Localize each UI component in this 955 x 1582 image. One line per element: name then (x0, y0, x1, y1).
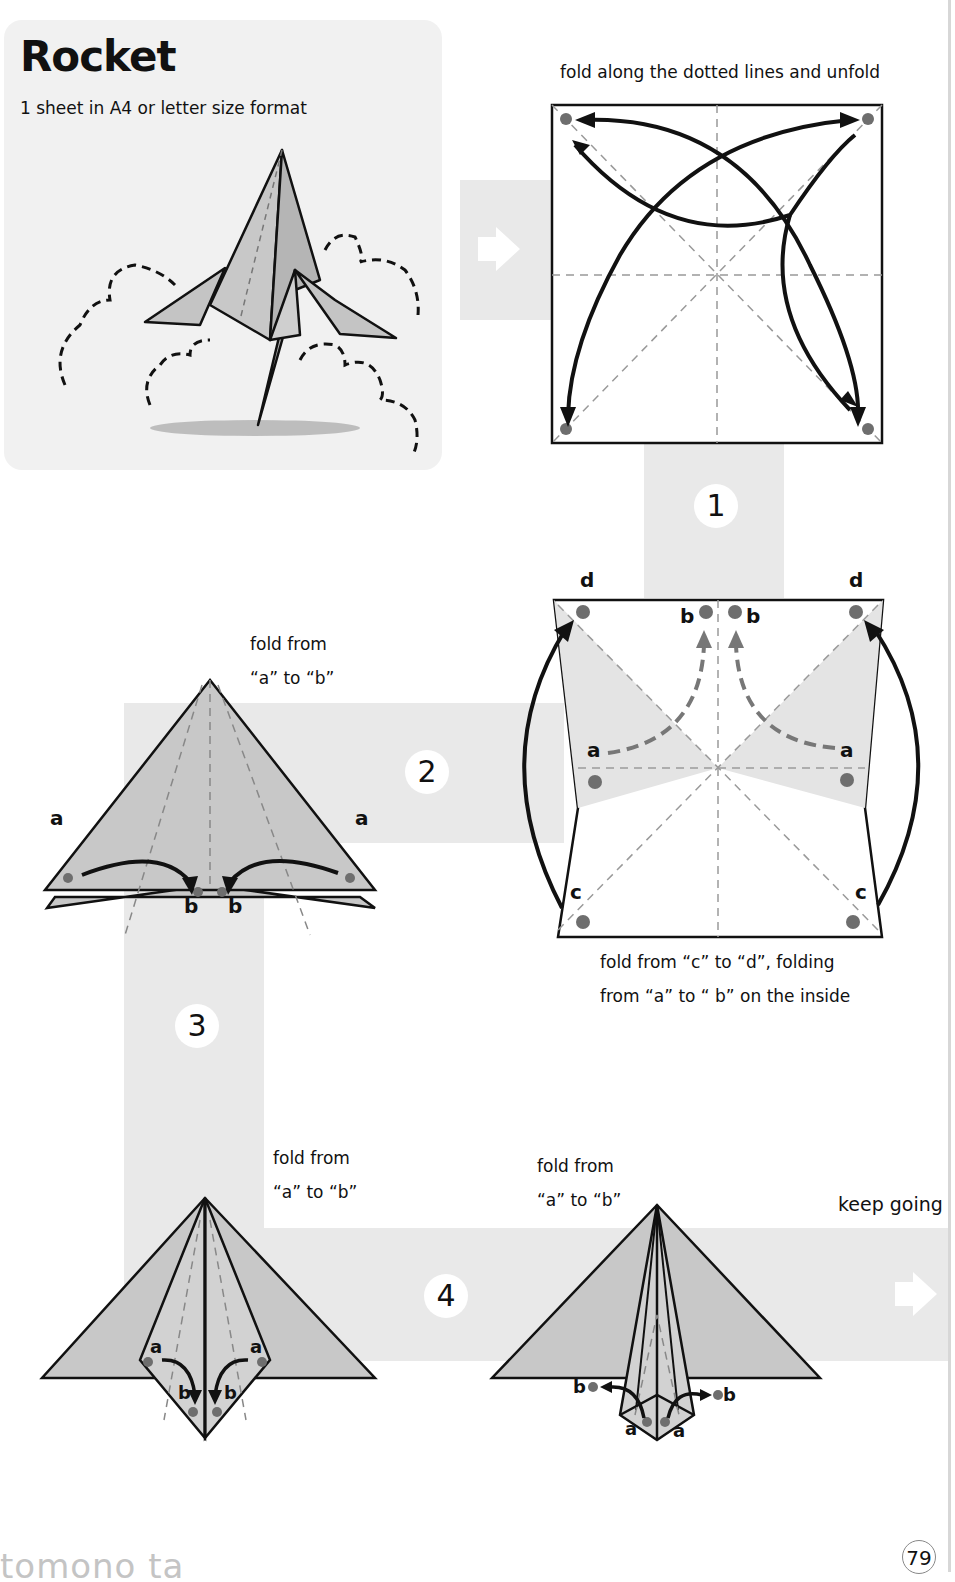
label-d-right: d (849, 568, 863, 592)
brand-logo: tomono ta (0, 1546, 184, 1582)
label-b-left: b (680, 604, 694, 628)
label-d-left: d (580, 568, 594, 592)
label-b-right: b (746, 604, 760, 628)
label-a-left: a (625, 1418, 637, 1439)
right-arrow-icon[interactable] (893, 1270, 943, 1320)
label-a-right: a (673, 1420, 685, 1441)
step-number-4: 4 (424, 1274, 468, 1318)
label-a-left: a (587, 738, 601, 762)
label-a-right: a (250, 1336, 262, 1357)
step1b-caption-line2: from “a” to “ b” on the inside (600, 980, 850, 1013)
label-a-left: a (150, 1336, 162, 1357)
step1b-caption-line1: fold from “c” to “d”, folding (600, 946, 835, 979)
step2-caption-line1: fold from (250, 628, 327, 661)
step1-diagram (540, 95, 900, 455)
label-b-right: b (723, 1384, 736, 1405)
step-number-1: 1 (694, 484, 738, 528)
right-arrow-icon (476, 225, 526, 275)
step3-caption-line1: fold from (273, 1142, 350, 1175)
label-c-right: c (855, 880, 867, 904)
page-number: 79 (902, 1540, 936, 1574)
keep-going-label: keep going (838, 1188, 943, 1221)
page-edge (948, 0, 951, 1572)
rocket-illustration (0, 0, 450, 480)
label-b-left: b (184, 894, 198, 918)
label-a-left: a (50, 806, 64, 830)
step-number-3: 3 (175, 1004, 219, 1048)
step4-caption-line1: fold from (537, 1150, 614, 1183)
label-b-left: b (573, 1376, 586, 1397)
step2-diagram (30, 660, 390, 920)
step1-caption: fold along the dotted lines and unfold (560, 56, 880, 89)
label-b-right: b (228, 894, 242, 918)
step1b-diagram (490, 560, 950, 960)
step4-diagram (480, 1190, 840, 1450)
step3-diagram (30, 1190, 380, 1450)
label-a-right: a (840, 738, 854, 762)
label-c-left: c (570, 880, 582, 904)
step-number-2: 2 (405, 750, 449, 794)
label-a-right: a (355, 806, 369, 830)
label-b-right: b (224, 1382, 237, 1403)
label-b-left: b (178, 1382, 191, 1403)
